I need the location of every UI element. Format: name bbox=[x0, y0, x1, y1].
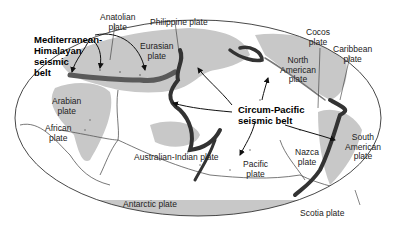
label-scotia-plate: Scotia plate bbox=[300, 209, 344, 219]
label-south-american-plate: South American plate bbox=[345, 133, 381, 162]
label-line: seismic belt bbox=[238, 115, 305, 126]
label-antarctic-plate: Antarctic plate bbox=[123, 200, 177, 210]
label-line: plate bbox=[280, 75, 316, 85]
label-arabian-plate: Arabian plate bbox=[52, 97, 81, 116]
label-line: plate bbox=[243, 170, 268, 180]
label-line: plate bbox=[345, 152, 381, 162]
label-line: Mediterranean- bbox=[34, 34, 102, 45]
label-line: Australian-Indian plate bbox=[134, 153, 219, 163]
label-line: plate bbox=[140, 52, 174, 62]
label-australian-indian-plate: Australian-Indian plate bbox=[134, 153, 219, 163]
label-nazca-plate: Nazca plate bbox=[295, 148, 319, 167]
label-line: plate bbox=[333, 55, 372, 65]
label-line: Circum-Pacific bbox=[238, 104, 305, 115]
label-african-plate: African plate bbox=[45, 124, 71, 143]
label-line: Himalayan bbox=[34, 45, 102, 56]
label-pacific-plate: Pacific plate bbox=[243, 160, 268, 179]
label-line: Antarctic plate bbox=[123, 200, 177, 210]
label-anatolian-plate: Anatolian plate bbox=[100, 13, 135, 32]
label-line: plate bbox=[295, 158, 319, 168]
label-line: Scotia plate bbox=[300, 209, 344, 219]
label-mediterranean-himalayan-belt: Mediterranean- Himalayan seismic belt bbox=[34, 34, 102, 78]
label-eurasian-plate: Eurasian plate bbox=[140, 42, 174, 61]
label-caribbean-plate: Caribbean plate bbox=[333, 45, 372, 64]
label-philippine-plate: Philippine plate bbox=[150, 18, 208, 28]
label-line: plate bbox=[52, 107, 81, 117]
label-line: plate bbox=[306, 38, 330, 48]
label-line: Philippine plate bbox=[150, 18, 208, 28]
label-line: plate bbox=[100, 23, 135, 33]
label-line: seismic bbox=[34, 56, 102, 67]
label-circum-pacific-belt: Circum-Pacific seismic belt bbox=[238, 104, 305, 126]
label-line: plate bbox=[45, 134, 71, 144]
label-cocos-plate: Cocos plate bbox=[306, 28, 330, 47]
label-line: belt bbox=[34, 67, 102, 78]
label-north-american-plate: North American plate bbox=[280, 56, 316, 85]
